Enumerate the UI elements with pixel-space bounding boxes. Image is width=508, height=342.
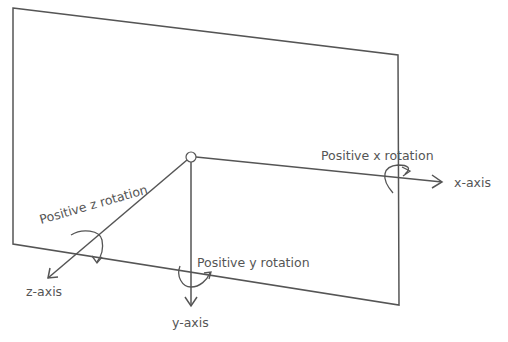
z-rotation-label: Positive z rotation	[38, 182, 150, 227]
origin-point	[186, 152, 196, 162]
x-axis-label: x-axis	[454, 175, 491, 190]
z-axis-label: z-axis	[26, 284, 62, 299]
rotation-diagram: Positive x rotation x-axis Positive z ro…	[0, 0, 508, 342]
y-axis-label: y-axis	[172, 315, 209, 330]
y-rotation-label: Positive y rotation	[197, 255, 310, 270]
x-rotation-label: Positive x rotation	[321, 148, 434, 163]
